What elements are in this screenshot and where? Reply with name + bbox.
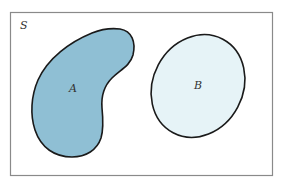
venn-diagram: S A B: [0, 0, 286, 186]
universe-label: S: [20, 19, 28, 32]
set-a-label: A: [68, 82, 77, 95]
set-b-label: B: [193, 79, 202, 92]
